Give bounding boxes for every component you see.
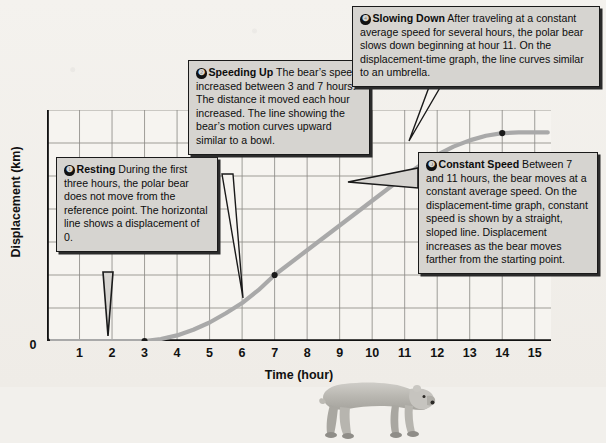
bear-paw-2	[342, 433, 354, 439]
bear-rear-leg-front	[340, 407, 351, 437]
data-point	[499, 130, 505, 136]
callout-4-number: ❹	[360, 14, 371, 25]
x-tick-label: 4	[174, 346, 181, 360]
polar-bear-illustration	[310, 363, 436, 443]
data-point	[402, 173, 408, 179]
bear-eye	[423, 395, 426, 398]
callout-1-title: Resting	[77, 163, 116, 175]
y-tick-label: 70	[0, 103, 37, 117]
callout-1-number: ❶	[64, 165, 75, 176]
callout-slowing-down[interactable]: ❹Slowing Down After traveling at a const…	[352, 6, 600, 87]
bear-paw-4	[407, 431, 419, 437]
data-point	[272, 272, 278, 278]
x-tick-label: 11	[398, 346, 411, 360]
y-tick-label: 10	[0, 301, 37, 315]
callout-2-title: Speeding Up	[209, 66, 274, 78]
x-tick-label: 8	[304, 346, 311, 360]
bear-ear	[413, 385, 421, 392]
callout-constant-speed[interactable]: ❸Constant Speed Between 7 and 11 hours, …	[418, 152, 598, 274]
x-tick-label: 14	[495, 346, 509, 360]
callout-2-body: The bear’s speed increased between 3 and…	[196, 66, 358, 146]
y-tick-label: 20	[0, 268, 37, 282]
x-tick-label: 0	[30, 338, 37, 352]
callout-3-number: ❸	[426, 160, 437, 171]
x-tick-label: 1	[76, 346, 83, 360]
x-tick-label: 9	[336, 346, 343, 360]
bear-paw-1	[325, 432, 337, 438]
x-tick-label: 7	[271, 346, 278, 360]
callout-speeding-up[interactable]: ❷Speeding Up The bear’s speed increased …	[188, 60, 370, 155]
x-tick-label: 13	[463, 346, 477, 360]
y-tick-label: 40	[0, 202, 37, 216]
bear-snout	[427, 396, 435, 406]
x-tick-label: 3	[141, 346, 148, 360]
callout-1-body: During the first three hours, the polar …	[64, 163, 208, 243]
y-tick-label: 60	[0, 136, 37, 150]
bear-nose	[431, 401, 435, 405]
bear-front-leg-front	[405, 405, 415, 436]
callout-resting[interactable]: ❶Resting During the first three hours, t…	[56, 157, 218, 252]
callout-3-title: Constant Speed	[439, 158, 520, 170]
x-tick-label: 10	[365, 346, 379, 360]
bear-paw-3	[390, 432, 402, 438]
y-tick-label: 50	[0, 169, 37, 183]
x-tick-label: 2	[109, 346, 116, 360]
bear-rear-leg-back	[327, 405, 338, 436]
y-tick-label: 30	[0, 235, 37, 249]
bear-front-leg-back	[391, 405, 400, 436]
x-tick-label: 15	[528, 346, 542, 360]
x-tick-label: 12	[430, 346, 444, 360]
callout-4-title: Slowing Down	[373, 12, 445, 24]
callout-2-number: ❷	[196, 68, 207, 79]
x-tick-label: 6	[239, 346, 246, 360]
callout-3-body: Between 7 and 11 hours, the bear moves a…	[426, 158, 588, 265]
x-tick-label: 5	[206, 346, 213, 360]
